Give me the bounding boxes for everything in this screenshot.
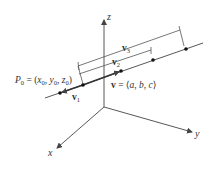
point-4 bbox=[184, 47, 188, 51]
x-axis-label: x bbox=[47, 147, 53, 158]
vector-v2-label: v2 bbox=[112, 57, 120, 68]
line-vector-diagram: z y x P0 = (x0, y0, z0) v = ⟨a, b, c⟩ v1… bbox=[0, 0, 215, 172]
vector-v1-label: v1 bbox=[72, 92, 80, 103]
point-P0-label: P0 = (x0, y0, z0) bbox=[14, 75, 72, 86]
point-P0 bbox=[81, 83, 85, 87]
vector-v3-label: v3 bbox=[122, 43, 130, 54]
point-2 bbox=[119, 69, 123, 73]
z-axis-label: z bbox=[106, 11, 111, 22]
x-axis bbox=[57, 107, 104, 148]
y-axis-label: y bbox=[194, 128, 200, 139]
direction-vector-label: v = ⟨a, b, c⟩ bbox=[111, 80, 157, 90]
point-3 bbox=[151, 58, 155, 62]
y-axis bbox=[104, 107, 192, 132]
point-left bbox=[58, 91, 62, 95]
